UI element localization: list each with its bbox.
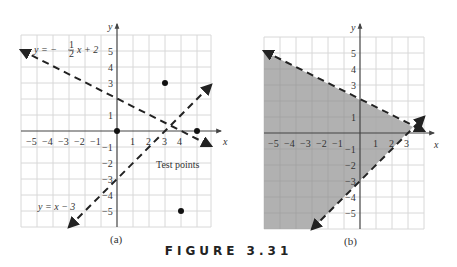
svg-text:−5: −5 (268, 138, 279, 149)
svg-text:2: 2 (389, 138, 394, 149)
svg-text:−3: −3 (58, 136, 69, 147)
svg-text:−1: −1 (332, 138, 343, 149)
svg-text:−4: −4 (284, 138, 295, 149)
svg-text:−1: −1 (102, 142, 113, 153)
svg-text:1: 1 (373, 138, 378, 149)
svg-text:3: 3 (404, 138, 409, 149)
svg-text:−4: −4 (42, 136, 53, 147)
svg-text:−5: −5 (102, 206, 113, 217)
test-point-5-0 (194, 128, 200, 134)
svg-text:−2: −2 (74, 136, 85, 147)
svg-text:−5: −5 (26, 136, 37, 147)
svg-text:2: 2 (146, 136, 151, 147)
svg-text:−2: −2 (102, 158, 113, 169)
svg-text:4: 4 (177, 136, 182, 147)
svg-text:−3: −3 (300, 138, 311, 149)
svg-text:−2: −2 (345, 160, 356, 171)
svg-text:−5: −5 (345, 208, 356, 219)
svg-text:3: 3 (108, 78, 113, 89)
svg-text:1: 1 (130, 136, 135, 147)
svg-text:4: 4 (108, 62, 113, 73)
test-points-label: Test points (156, 159, 200, 170)
svg-text:1: 1 (351, 112, 356, 123)
y-axis-label-b: y (350, 22, 356, 33)
panel-a: x y −5 −4 −3 −2 −1 1 2 3 4 1 3 4 5 −1 −2… (21, 21, 228, 246)
line-2-equation-a: y = x − 3 (37, 201, 75, 212)
svg-text:−2: −2 (316, 138, 327, 149)
test-point-3-3 (162, 80, 168, 86)
svg-text:2: 2 (69, 48, 74, 59)
svg-text:3: 3 (351, 80, 356, 91)
line-1-equation-a: y = − (33, 44, 57, 55)
svg-text:5: 5 (108, 46, 113, 57)
figure-canvas: x y −5 −4 −3 −2 −1 1 2 3 4 1 3 4 5 −1 −2… (0, 0, 457, 267)
x-axis-label-a: x (222, 136, 228, 147)
figure-label: FIGURE 3.31 (0, 244, 457, 258)
panel-b: x y −5 −4 −3 −2 −1 1 2 3 1 3 4 5 −1 −2 −… (264, 22, 439, 248)
svg-text:5: 5 (351, 48, 356, 59)
y-axis-label-a: y (107, 21, 113, 32)
line-1-equation-tail-a: x + 2 (76, 44, 98, 55)
boundary-line-2-a (69, 85, 211, 227)
svg-text:−1: −1 (345, 144, 356, 155)
svg-text:1: 1 (108, 110, 113, 121)
test-point-0-0 (114, 128, 120, 134)
svg-text:4: 4 (351, 64, 356, 75)
test-point-4-neg5 (178, 208, 184, 214)
svg-text:−3: −3 (345, 176, 356, 187)
svg-text:−1: −1 (90, 136, 101, 147)
svg-text:3: 3 (162, 136, 167, 147)
x-axis-label-b: x (433, 139, 439, 150)
svg-text:−3: −3 (102, 174, 113, 185)
